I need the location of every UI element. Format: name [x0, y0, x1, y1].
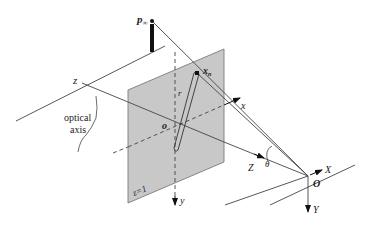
x-label: x [240, 100, 246, 111]
x-axis-arrow [224, 98, 240, 105]
p-inf-point [150, 19, 154, 23]
optical-axis-dashed [113, 147, 128, 153]
o-label: o [162, 120, 167, 131]
optical-axis-line [82, 83, 128, 102]
r-label: r [178, 88, 182, 98]
X-axis-arrowhead [310, 170, 322, 175]
optical-axis-label-2: axis [70, 124, 86, 135]
xn-point [195, 71, 199, 75]
p-inf-label: p∞ [136, 13, 148, 27]
X-axis-line-left [225, 176, 308, 205]
theta-label: θ [265, 159, 270, 169]
y-label: y [179, 195, 185, 206]
Z-axis-arrowhead [254, 154, 264, 158]
Z-label: Z [248, 162, 254, 173]
camera-geometry-diagram: p∞ z optical axis xn r o x y z=1 θ Z X Y… [0, 0, 368, 225]
O-label: O [313, 178, 320, 189]
Y-label: Y [313, 204, 320, 215]
X-label: X [324, 164, 332, 175]
z-axis-label: z [72, 74, 78, 86]
p-inf-bar [150, 24, 154, 52]
optical-axis-label-1: optical [64, 112, 91, 123]
